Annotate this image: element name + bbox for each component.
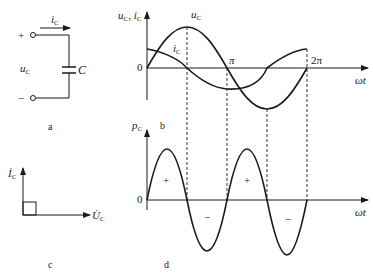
terminal-minus: [31, 96, 36, 101]
sign-minus-2: −: [285, 214, 291, 225]
tick-2pi: 2π: [311, 55, 322, 66]
caption-c: c: [48, 260, 52, 270]
label-ic-phasor: İC: [8, 168, 16, 181]
phasor-diagram: [23, 168, 90, 215]
power-plot-d: [147, 130, 368, 255]
sign-plus-1: +: [163, 175, 169, 186]
terminal-plus: [31, 33, 36, 38]
tick-pi: π: [229, 55, 235, 66]
x-axis-label-d: ωt: [355, 207, 366, 218]
label-plus: +: [18, 30, 24, 41]
caption-a: a: [48, 122, 52, 132]
label-uc-phasor: U̇C: [92, 210, 105, 223]
label-capacitor: C: [78, 64, 86, 76]
sign-minus-1: −: [204, 212, 210, 223]
x-axis-label-b: ωt: [355, 75, 366, 86]
circuit-schematic: [31, 28, 77, 101]
curve-label-uc: uC: [191, 9, 201, 22]
origin-b: 0: [137, 62, 143, 73]
curve-label-ic: iC: [173, 43, 181, 56]
diagram-drawing: [0, 0, 373, 278]
caption-b: b: [160, 121, 165, 131]
sign-plus-2: +: [244, 175, 250, 186]
y-axis-label-b: uC, iC: [118, 10, 141, 23]
label-minus: −: [18, 93, 24, 104]
origin-d: 0: [137, 194, 143, 205]
right-angle-mark: [23, 202, 36, 215]
capacitor-ac-diagram: iC + − uC C a uC, iC uC iC 0 π 2π ωt b İ…: [0, 0, 373, 278]
label-ic-a: iC: [51, 14, 59, 27]
caption-d: d: [164, 260, 169, 270]
y-axis-label-d: pC: [132, 120, 142, 133]
label-uc-a: uC: [20, 63, 30, 76]
